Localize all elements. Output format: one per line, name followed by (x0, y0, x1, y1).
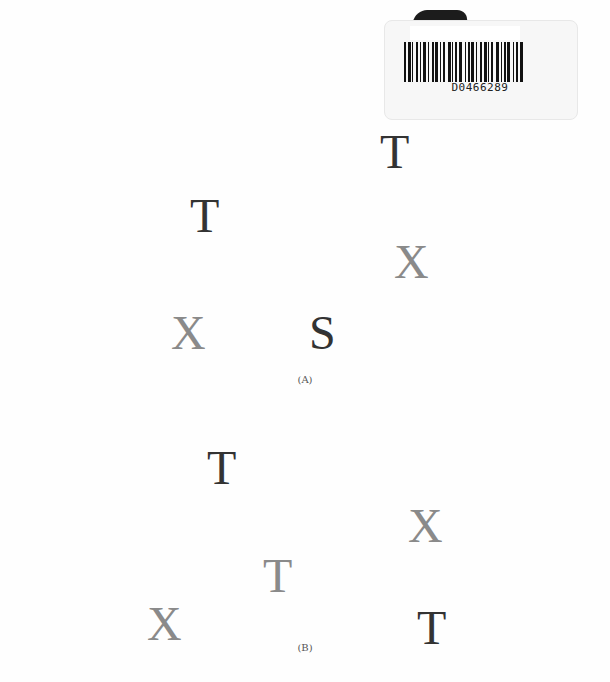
stimulus-letter: X (394, 238, 429, 286)
stimulus-letter: T (207, 444, 236, 492)
figure-caption: (B) (285, 642, 325, 653)
stimulus-letter: S (309, 309, 336, 357)
stimulus-letter: T (417, 604, 446, 652)
stimulus-letter: T (190, 192, 219, 240)
stimulus-letter: X (147, 600, 182, 648)
barcode-bars (404, 42, 550, 82)
figure-caption: (A) (285, 374, 325, 385)
stimulus-letter: X (171, 309, 206, 357)
stimulus-letter: T (263, 552, 292, 600)
stimulus-letter: X (408, 502, 443, 550)
stimulus-letter: T (380, 128, 409, 176)
document-page: D0466289 T T X X S (A) T X T X T (B) (0, 0, 610, 682)
barcode-number: D0466289 (440, 81, 520, 94)
sticker-redacted-label (410, 26, 520, 40)
